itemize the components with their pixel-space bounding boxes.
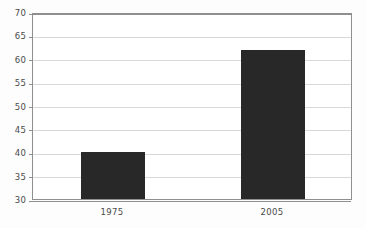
y-axis-label-55: 55 [0,78,26,88]
y-axis-label-45: 45 [0,125,26,135]
gridline-70 [33,14,351,15]
x-axis-label-2005: 2005 [261,207,284,217]
chart-page: 303540455055606570 19752005 [0,0,366,228]
y-axis-label-50: 50 [0,102,26,112]
y-tick-mark-40 [29,154,33,155]
y-axis-label-60: 60 [0,55,26,65]
y-tick-mark-65 [29,37,33,38]
gridline-65 [33,37,351,38]
bar-1975 [81,152,145,199]
y-axis-label-30: 30 [0,195,26,205]
y-axis-label-35: 35 [0,172,26,182]
bar-2005 [241,50,305,199]
y-tick-mark-50 [29,107,33,108]
x-axis-label-1975: 1975 [101,207,124,217]
gridline-30 [33,201,351,202]
y-tick-mark-30 [29,201,33,202]
y-tick-mark-55 [29,84,33,85]
y-tick-mark-70 [29,14,33,15]
y-tick-mark-45 [29,130,33,131]
y-tick-mark-35 [29,177,33,178]
y-axis-label-40: 40 [0,148,26,158]
y-axis-label-70: 70 [0,8,26,18]
y-axis-label-65: 65 [0,31,26,41]
y-tick-mark-60 [29,60,33,61]
plot-area [32,13,352,200]
